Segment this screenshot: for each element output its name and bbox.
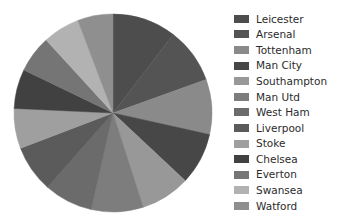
legend-item[interactable]: Swansea: [234, 183, 339, 199]
legend-item-label: West Ham: [256, 107, 310, 118]
legend-item[interactable]: Arsenal: [234, 27, 339, 43]
legend-item-label: Everton: [256, 169, 297, 180]
legend-item-label: Watford: [256, 201, 297, 212]
pie-plot-area: [0, 0, 228, 223]
legend-item-label: Tottenham: [256, 45, 312, 56]
legend-swatch-icon: [234, 155, 249, 163]
legend-swatch-icon: [234, 186, 249, 194]
legend-swatch-icon: [234, 171, 249, 179]
legend-item[interactable]: Chelsea: [234, 151, 339, 167]
legend-item[interactable]: Southampton: [234, 73, 339, 89]
legend-item[interactable]: Man City: [234, 58, 339, 74]
legend-swatch-icon: [234, 15, 249, 23]
pie-chart-figure: LeicesterArsenalTottenhamMan CitySoutham…: [0, 0, 339, 223]
legend-item-label: Southampton: [256, 76, 327, 87]
legend-item[interactable]: Leicester: [234, 11, 339, 27]
legend-item[interactable]: Tottenham: [234, 42, 339, 58]
legend-item-label: Leicester: [256, 14, 304, 25]
legend-swatch-icon: [234, 46, 249, 54]
legend-swatch-icon: [234, 140, 249, 148]
legend-item[interactable]: Man Utd: [234, 89, 339, 105]
legend-item[interactable]: Stoke: [234, 136, 339, 152]
legend-swatch-icon: [234, 124, 249, 132]
legend-item-label: Man Utd: [256, 92, 300, 103]
legend-swatch-icon: [234, 93, 249, 101]
pie-svg: [0, 0, 228, 223]
chart-legend: LeicesterArsenalTottenhamMan CitySoutham…: [234, 11, 339, 214]
legend-item[interactable]: Liverpool: [234, 120, 339, 136]
legend-item-label: Man City: [256, 60, 302, 71]
legend-item-label: Stoke: [256, 138, 285, 149]
legend-item[interactable]: Watford: [234, 198, 339, 214]
legend-item-label: Arsenal: [256, 29, 295, 40]
legend-swatch-icon: [234, 108, 249, 116]
legend-item-label: Liverpool: [256, 123, 304, 134]
legend-item[interactable]: Everton: [234, 167, 339, 183]
legend-swatch-icon: [234, 62, 249, 70]
legend-swatch-icon: [234, 202, 249, 210]
legend-item-label: Chelsea: [256, 154, 298, 165]
legend-swatch-icon: [234, 77, 249, 85]
legend-item-label: Swansea: [256, 185, 303, 196]
legend-swatch-icon: [234, 30, 249, 38]
legend-item[interactable]: West Ham: [234, 105, 339, 121]
